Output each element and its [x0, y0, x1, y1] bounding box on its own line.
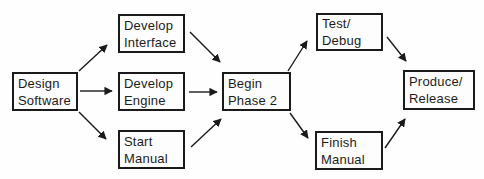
flowchart-node-label-begin-phase-2: Begin Phase 2 — [224, 75, 277, 109]
flowchart-node-test-debug: Test/ Debug — [316, 13, 383, 51]
flowchart-node-begin-phase-2: Begin Phase 2 — [222, 72, 291, 111]
flowchart-node-label-develop-engine: Develop Engine — [120, 75, 173, 109]
flowchart-node-label-start-manual: Start Manual — [120, 133, 168, 167]
arrow-develop-interface-to-begin-phase-2 — [190, 32, 220, 62]
flowchart-node-produce-release: Produce/ Release — [403, 70, 475, 110]
flowchart-node-develop-engine: Develop Engine — [118, 72, 185, 111]
flowchart-node-label-test-debug: Test/ Debug — [318, 15, 361, 49]
flowchart-node-label-produce-release: Produce/ Release — [405, 73, 463, 107]
flowchart-node-develop-interface: Develop Interface — [118, 14, 185, 53]
flowchart-node-label-design-software: Design Software — [14, 75, 71, 109]
flowchart-node-label-finish-manual: Finish Manual — [317, 134, 365, 168]
arrow-design-software-to-develop-interface — [79, 45, 107, 71]
flowchart-node-design-software: Design Software — [12, 72, 78, 111]
arrow-begin-phase-2-to-finish-manual — [290, 113, 308, 138]
flowchart-node-start-manual: Start Manual — [118, 130, 185, 169]
arrow-design-software-to-start-manual — [79, 112, 106, 139]
flowchart-node-finish-manual: Finish Manual — [315, 131, 383, 170]
arrow-begin-phase-2-to-test-debug — [288, 41, 307, 71]
arrow-start-manual-to-begin-phase-2 — [191, 119, 221, 147]
arrow-finish-manual-to-produce-release — [385, 119, 405, 148]
arrow-test-debug-to-produce-release — [387, 37, 406, 61]
flowchart-canvas: Design SoftwareDevelop InterfaceDevelop … — [0, 0, 484, 179]
flowchart-node-label-develop-interface: Develop Interface — [120, 17, 176, 51]
